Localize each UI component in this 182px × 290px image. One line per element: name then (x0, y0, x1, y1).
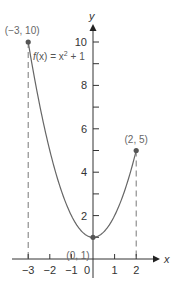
y-axis-arrow-icon (90, 24, 97, 31)
point-label: (2, 5) (125, 134, 148, 145)
x-axis-label: x (163, 253, 170, 265)
function-curve (28, 42, 136, 237)
data-point (90, 235, 95, 240)
x-tick-label: 2 (133, 264, 139, 276)
y-ticks: 246810 (75, 36, 99, 237)
x-axis-arrow-icon (153, 256, 160, 263)
x-tick-label: 1 (112, 264, 118, 276)
dashed-guides (28, 42, 136, 259)
y-tick-label: 10 (75, 36, 87, 48)
data-point (134, 148, 139, 153)
point-label: (−3, 10) (5, 25, 40, 36)
y-tick-label: 6 (81, 123, 87, 135)
point-label: (0, 1) (66, 250, 89, 261)
y-axis-label: y (88, 10, 96, 22)
x-tick-label: −2 (44, 264, 57, 276)
parabola-chart: x y −3−2−1012 246810 (−3, 10)(0, 1)(2, 5… (0, 0, 182, 290)
x-tick-label: 0 (84, 264, 90, 276)
y-tick-label: 2 (81, 210, 87, 222)
data-point (26, 39, 31, 44)
y-tick-label: 4 (81, 166, 87, 178)
function-label: f(x) = x2 + 1 (33, 50, 85, 62)
x-tick-label: −1 (65, 264, 78, 276)
y-tick-label: 8 (81, 79, 87, 91)
x-tick-label: −3 (22, 264, 35, 276)
